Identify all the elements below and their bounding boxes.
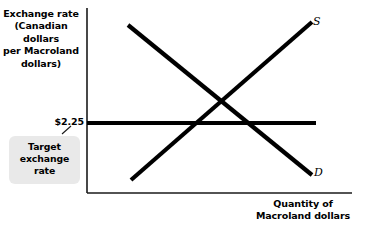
supply-curve	[131, 22, 312, 180]
target-callout-line-0: Target	[28, 141, 61, 152]
x-axis-title: Quantity ofMacroland dollars	[238, 198, 368, 223]
y-axis-title-line-3: per Macroland	[3, 45, 79, 56]
y-axis-title-line-0: Exchange rate	[3, 8, 79, 19]
demand-curve-label: D	[314, 166, 323, 179]
y-axis-title-line-4: dollars)	[21, 58, 61, 69]
y-axis-title: Exchange rate(Canadiandollarsper Macrola…	[2, 8, 80, 70]
target-exchange-rate-callout: Targetexchangerate	[9, 136, 80, 184]
y-axis-title-line-1: (Canadian	[14, 20, 67, 31]
x-axis-title-line-0: Quantity of	[273, 198, 332, 209]
target-rate-value-label: $2.25	[26, 116, 84, 127]
target-callout-line-1: exchange	[20, 153, 69, 164]
target-callout-line-2: rate	[34, 165, 55, 176]
exchange-rate-figure: Exchange rate(Canadiandollarsper Macrola…	[0, 0, 374, 237]
x-axis-title-line-1: Macroland dollars	[256, 210, 350, 221]
supply-curve-label: S	[313, 15, 321, 28]
y-axis-title-line-2: dollars	[23, 33, 59, 44]
callout-leader-line	[62, 126, 71, 134]
